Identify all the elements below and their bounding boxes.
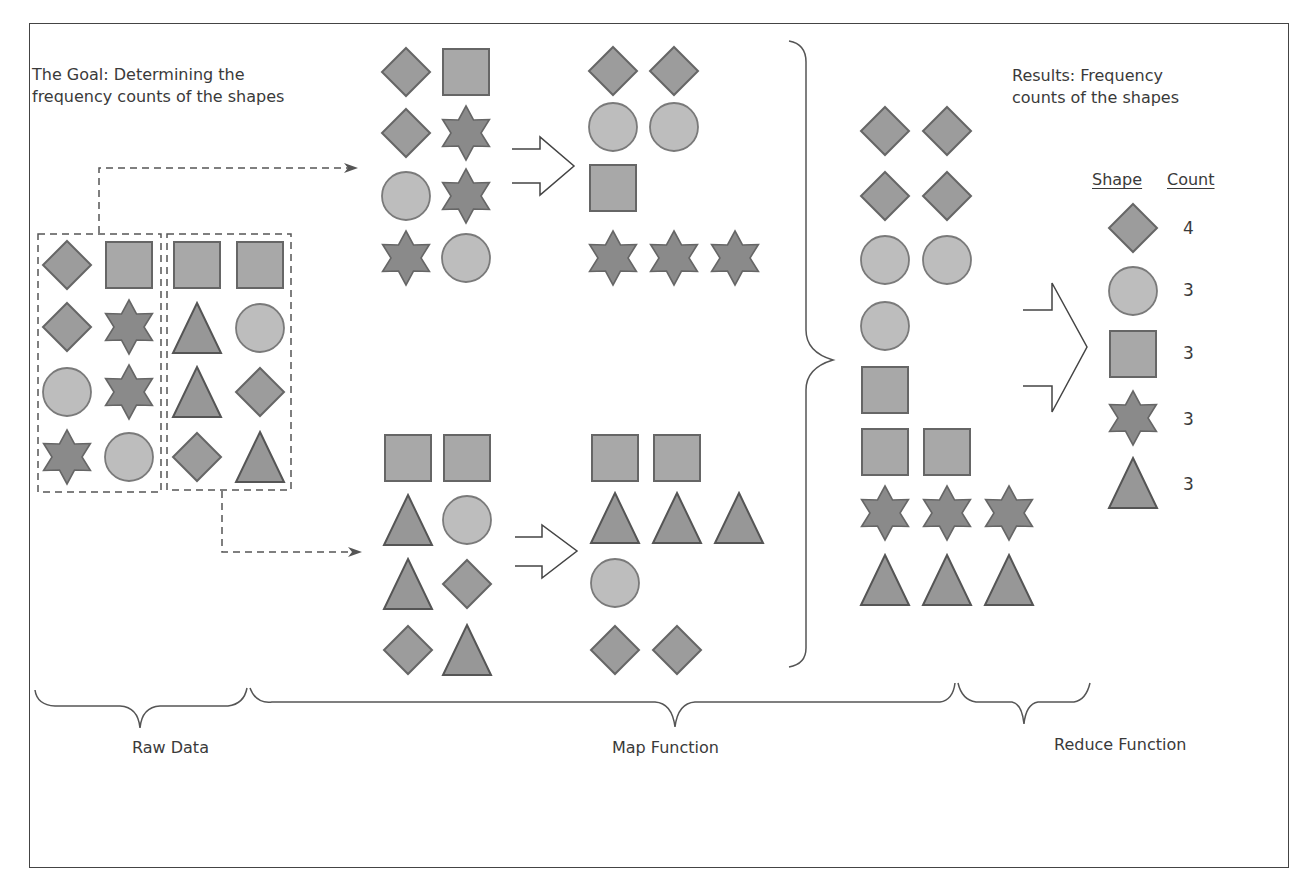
square-icon [444, 435, 490, 481]
diamond-icon [923, 172, 971, 220]
diamond-icon [653, 626, 701, 674]
square-icon [174, 242, 220, 288]
table-header-shape: Shape [1092, 170, 1142, 190]
square-icon [237, 242, 283, 288]
triangle-icon [653, 493, 701, 543]
square-icon [592, 435, 638, 481]
square-icon [862, 367, 908, 413]
circle-icon [861, 302, 909, 350]
square-icon [385, 435, 431, 481]
count-diamond: 4 [1183, 218, 1194, 238]
star-icon [443, 106, 490, 160]
count-circle: 3 [1183, 280, 1194, 300]
star-icon [106, 300, 153, 354]
diamond-icon [382, 109, 430, 157]
diamond-icon [861, 107, 909, 155]
triangle-icon [384, 559, 432, 609]
square-icon [654, 435, 700, 481]
star-icon [862, 486, 909, 540]
diamond-icon [43, 241, 91, 289]
reduce-arrow-icon [1023, 283, 1087, 412]
stage-label-raw-data: Raw Data [132, 738, 209, 758]
diamond-icon [1109, 204, 1157, 252]
count-star: 3 [1183, 409, 1194, 429]
mapreduce-diagram: The Goal: Determining the frequency coun… [0, 0, 1316, 881]
dashed-connector-top [99, 168, 355, 233]
triangle-icon [923, 555, 971, 605]
square-icon [443, 49, 489, 95]
circle-icon [589, 103, 637, 151]
dashed-connector-bottom [222, 491, 358, 552]
circle-icon [442, 234, 490, 282]
diamond-icon [923, 107, 971, 155]
map-function-brace [250, 683, 955, 727]
goal-title-line2: frequency counts of the shapes [32, 87, 284, 107]
raw-data-brace [35, 688, 247, 728]
circle-icon [650, 103, 698, 151]
diamond-icon [173, 433, 221, 481]
triangle-icon [715, 493, 763, 543]
map-arrow-bottom-icon [515, 525, 577, 578]
star-icon [106, 365, 153, 419]
diamond-icon [384, 626, 432, 674]
diamond-icon [650, 47, 698, 95]
triangle-icon [591, 493, 639, 543]
triangle-icon [443, 625, 491, 675]
square-icon [106, 242, 152, 288]
star-icon [712, 231, 759, 285]
star-icon [443, 169, 490, 223]
triangle-icon [173, 303, 221, 353]
square-icon [862, 429, 908, 475]
stage-label-reduce-function: Reduce Function [1054, 735, 1186, 755]
circle-icon [43, 368, 91, 416]
circle-icon [1109, 267, 1157, 315]
right-brace [789, 41, 833, 667]
arrowhead-icon [348, 547, 362, 557]
triangle-icon [173, 367, 221, 417]
diamond-icon [589, 47, 637, 95]
star-icon [383, 231, 430, 285]
reduce-function-brace [958, 683, 1090, 724]
star-icon [44, 430, 91, 484]
circle-icon [591, 559, 639, 607]
diamond-icon [591, 626, 639, 674]
triangle-icon [236, 432, 284, 482]
stage-label-map-function: Map Function [612, 738, 719, 758]
triangle-icon [384, 495, 432, 545]
star-icon [924, 486, 971, 540]
results-title-line1: Results: Frequency [1012, 66, 1163, 86]
count-square: 3 [1183, 343, 1194, 363]
star-icon [651, 231, 698, 285]
diamond-icon [861, 172, 909, 220]
star-icon [986, 486, 1033, 540]
count-triangle: 3 [1183, 474, 1194, 494]
table-header-count: Count [1167, 170, 1215, 190]
diamond-icon [236, 368, 284, 416]
square-icon [1110, 331, 1156, 377]
results-title-line2: counts of the shapes [1012, 88, 1179, 108]
square-icon [924, 429, 970, 475]
square-icon [590, 165, 636, 211]
diamond-icon [443, 560, 491, 608]
star-icon [1110, 391, 1157, 445]
circle-icon [105, 433, 153, 481]
goal-title-line1: The Goal: Determining the [32, 65, 245, 85]
map-arrow-top-icon [512, 137, 574, 195]
circle-icon [923, 236, 971, 284]
circle-icon [443, 496, 491, 544]
triangle-icon [861, 555, 909, 605]
diamond-icon [382, 48, 430, 96]
diamond-icon [43, 303, 91, 351]
triangle-icon [985, 555, 1033, 605]
triangle-icon [1109, 458, 1157, 508]
circle-icon [382, 172, 430, 220]
circle-icon [861, 236, 909, 284]
star-icon [590, 231, 637, 285]
circle-icon [236, 304, 284, 352]
